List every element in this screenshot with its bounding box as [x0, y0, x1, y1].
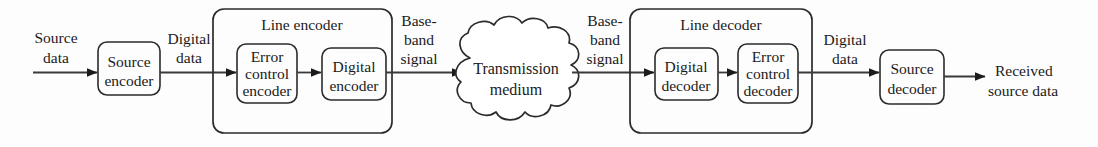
- block-digital-encoder: Digital encoder: [322, 48, 386, 100]
- block-diagram: Source data Source encoder Digital data …: [0, 0, 1098, 147]
- source-decoder-line1: Source: [890, 60, 933, 77]
- source-encoder-label-line1: Source: [107, 53, 150, 70]
- error-control-decoder-line3: decoder: [743, 82, 793, 99]
- signal-baseband-tx-line3: signal: [400, 50, 437, 67]
- signal-digital-data-tx-line1: Digital: [167, 30, 210, 47]
- error-control-decoder-line1: Error: [752, 48, 786, 65]
- transmission-medium-line1: Transmission: [473, 60, 559, 77]
- digital-decoder-line1: Digital: [664, 58, 707, 75]
- transmission-medium-line2: medium: [490, 81, 543, 98]
- signal-digital-data-rx-line2: data: [832, 50, 858, 67]
- signal-digital-data-tx: Digital data: [167, 30, 210, 66]
- block-error-control-decoder: Error control decoder: [738, 44, 798, 103]
- signal-baseband-tx: Base- band signal: [400, 12, 437, 67]
- block-source-decoder: Source decoder: [880, 50, 944, 104]
- digital-decoder-line2: decoder: [661, 77, 711, 94]
- signal-source-data-line1: Source: [34, 29, 77, 46]
- source-decoder-line2: decoder: [887, 80, 937, 97]
- error-control-decoder-line2: control: [746, 65, 790, 82]
- block-transmission-medium: Transmission medium: [456, 16, 579, 119]
- signal-received-source-data-line1: Received: [995, 62, 1053, 79]
- block-source-encoder: Source encoder: [98, 42, 160, 95]
- diagram-canvas: Source data Source encoder Digital data …: [0, 0, 1098, 147]
- signal-baseband-rx-line1: Base-: [587, 12, 622, 29]
- line-decoder-title: Line decoder: [680, 16, 762, 33]
- error-control-encoder-line1: Error: [251, 48, 285, 65]
- block-error-control-encoder: Error control encoder: [237, 44, 297, 103]
- signal-digital-data-rx-line1: Digital: [823, 31, 866, 48]
- signal-source-data-line2: data: [43, 49, 69, 66]
- signal-received-source-data-line2: source data: [988, 82, 1058, 99]
- error-control-encoder-line2: control: [245, 65, 289, 82]
- signal-baseband-rx-line3: signal: [586, 50, 623, 67]
- error-control-encoder-line3: encoder: [242, 82, 292, 99]
- line-encoder-title: Line encoder: [261, 16, 343, 33]
- source-encoder-label-line2: encoder: [104, 72, 154, 89]
- block-digital-decoder: Digital decoder: [655, 48, 718, 100]
- signal-baseband-tx-line2: band: [404, 31, 434, 48]
- digital-encoder-line2: encoder: [329, 77, 379, 94]
- digital-encoder-line1: Digital: [332, 58, 375, 75]
- signal-baseband-rx-line2: band: [590, 31, 620, 48]
- signal-received-source-data: Received source data: [988, 62, 1058, 99]
- signal-baseband-tx-line1: Base-: [401, 12, 436, 29]
- signal-digital-data-tx-line2: data: [176, 49, 202, 66]
- signal-digital-data-rx: Digital data: [823, 31, 866, 67]
- signal-source-data: Source data: [34, 29, 77, 66]
- signal-baseband-rx: Base- band signal: [586, 12, 623, 67]
